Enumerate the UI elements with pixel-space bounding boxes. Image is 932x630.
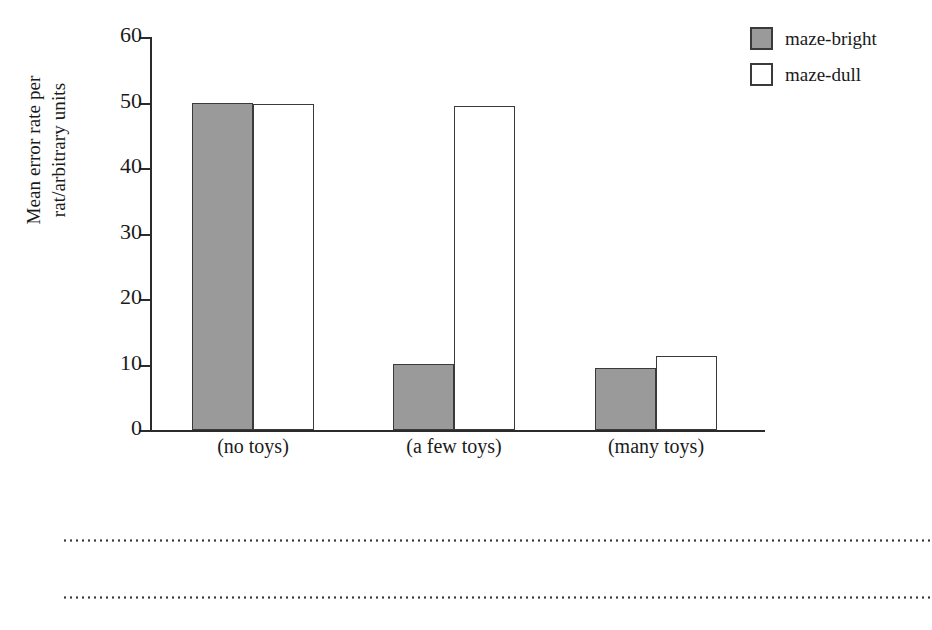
legend-swatch-empty-square-icon [750, 63, 773, 86]
y-tick-label: 10 [120, 352, 142, 374]
y-tick-label: 30 [120, 221, 142, 243]
legend-label-maze-bright: maze-bright [785, 29, 877, 48]
y-axis-line [150, 37, 152, 431]
x-group-label-sublabel: (a few toys) [354, 432, 554, 460]
y-tick-label: 60 [120, 24, 142, 46]
bar-poor-maze-dull [253, 104, 314, 430]
x-group-label-sublabel: (many toys) [556, 432, 756, 460]
y-tick-label: 20 [120, 286, 142, 308]
bar-poor-maze-bright [192, 103, 253, 431]
bar-chart-figure: Mean error rate per rat/arbitrary units … [0, 0, 932, 630]
legend-label-maze-dull: maze-dull [785, 65, 861, 84]
bar-enriched-maze-dull [656, 356, 717, 430]
y-tick-label: 0 [131, 417, 142, 439]
legend-swatch-filled-square-icon [750, 27, 773, 50]
y-tick-label: 40 [120, 155, 142, 177]
bar-enriched-maze-bright [595, 368, 656, 430]
y-tick-label: 50 [120, 90, 142, 112]
x-group-label-sublabel: (no toys) [153, 432, 353, 460]
chart-legend: maze-bright maze-dull [750, 20, 877, 92]
y-axis-title-line-2: rat/arbitrary units [46, 75, 71, 224]
y-axis-title: Mean error rate per rat/arbitrary units [16, 0, 76, 300]
legend-item-maze-bright: maze-bright [750, 20, 877, 56]
dotted-rule-lower [62, 596, 932, 599]
bar-normal-maze-dull [454, 106, 515, 430]
bar-normal-maze-bright [393, 364, 454, 430]
y-axis-title-line-1: Mean error rate per [21, 75, 46, 224]
dotted-rule-upper [62, 539, 932, 542]
plot-area: 0102030405060 [150, 37, 765, 430]
legend-item-maze-dull: maze-dull [750, 56, 877, 92]
